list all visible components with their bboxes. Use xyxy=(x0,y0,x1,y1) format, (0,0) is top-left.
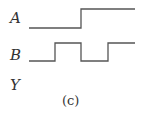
waveform-b xyxy=(29,43,135,61)
signal-label-b: B xyxy=(10,48,21,63)
figure-caption: (c) xyxy=(62,94,79,107)
signal-label-a: A xyxy=(10,11,21,26)
timing-diagram: A B Y (c) xyxy=(0,0,145,113)
waveform-a xyxy=(29,9,135,28)
signal-label-y: Y xyxy=(10,78,20,93)
